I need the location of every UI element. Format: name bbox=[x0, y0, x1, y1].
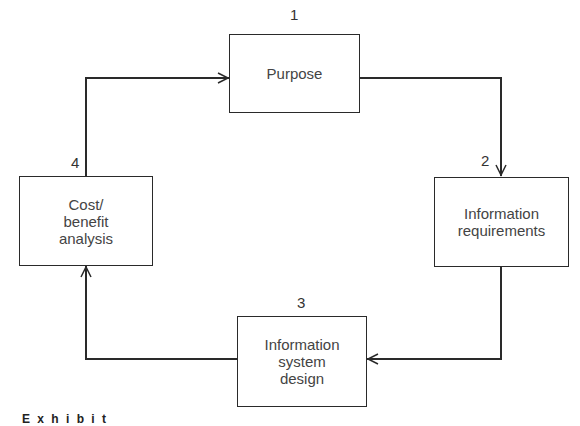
node-label: Cost/ benefit analysis bbox=[59, 196, 113, 247]
edge-requirements-to-design bbox=[367, 266, 501, 359]
node-information-system-design: Information system design bbox=[237, 316, 367, 407]
node-label: Purpose bbox=[267, 65, 323, 82]
step-number-4: 4 bbox=[71, 154, 79, 171]
node-purpose: Purpose bbox=[229, 34, 360, 113]
node-label: Information requirements bbox=[458, 205, 546, 239]
step-number-3: 3 bbox=[297, 294, 305, 311]
node-information-requirements: Information requirements bbox=[434, 177, 569, 267]
step-number-1: 1 bbox=[290, 6, 298, 23]
edge-design-to-costbenefit bbox=[86, 266, 237, 359]
edge-purpose-to-requirements bbox=[359, 78, 501, 176]
edge-costbenefit-to-purpose bbox=[86, 78, 229, 176]
step-number-2: 2 bbox=[481, 152, 489, 169]
node-label: Information system design bbox=[264, 336, 339, 387]
figure-caption-fragment: E x h i b i t bbox=[22, 412, 108, 426]
node-cost-benefit-analysis: Cost/ benefit analysis bbox=[19, 176, 153, 266]
